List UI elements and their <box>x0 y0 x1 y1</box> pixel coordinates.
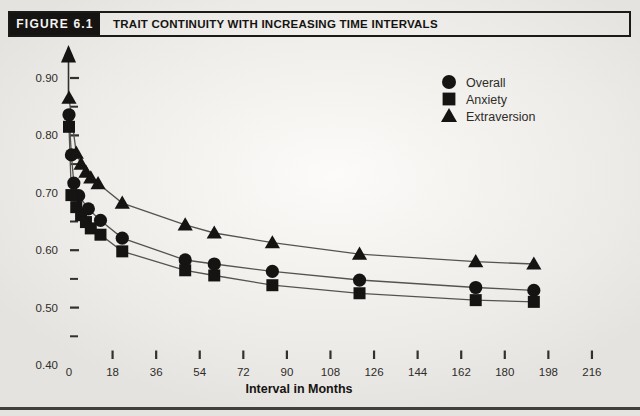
series-line-overall <box>69 115 534 291</box>
legend-extraversion-triangle-marker <box>441 108 457 122</box>
point-overall-circle-marker <box>67 176 80 189</box>
page-bottom-rule <box>0 407 640 410</box>
y-axis-tick-label: 0.70 <box>36 187 58 199</box>
x-axis-tick-label: 36 <box>150 366 163 378</box>
y-axis-tick-label: 0.80 <box>36 129 58 141</box>
y-axis-tick-label: 0.50 <box>36 302 58 314</box>
point-overall-circle-marker <box>353 273 366 286</box>
x-axis-tick-label: 126 <box>364 366 383 378</box>
x-axis-tick-label: 216 <box>582 366 601 378</box>
x-axis-tick-label: 0 <box>66 366 72 378</box>
y-axis-tick-label: 0.60 <box>36 244 58 256</box>
x-axis-tick-label: 18 <box>106 366 119 378</box>
x-axis-title: Interval in Months <box>246 382 353 396</box>
point-overall-circle-marker <box>527 284 540 297</box>
point-anxiety-square-marker <box>528 296 540 308</box>
point-anxiety-square-marker <box>116 245 128 257</box>
point-extraversion-triangle-marker <box>115 196 130 209</box>
point-anxiety-square-marker <box>208 269 220 281</box>
legend-label-overall: Overall <box>466 76 506 90</box>
y-axis-arrow-icon <box>61 45 76 63</box>
x-axis-tick-label: 180 <box>495 366 514 378</box>
point-overall-circle-marker <box>208 257 221 270</box>
y-axis-tick-label: 0.40 <box>36 359 58 371</box>
point-overall-circle-marker <box>266 265 279 278</box>
legend-overall-circle-marker <box>442 75 456 89</box>
y-axis-tick-label: 0.90 <box>36 72 58 84</box>
point-overall-circle-marker <box>62 108 75 121</box>
legend-label-anxiety: Anxiety <box>466 93 508 107</box>
x-axis-tick-label: 108 <box>321 366 340 378</box>
x-axis-tick-label: 90 <box>280 366 293 378</box>
series-line-extraversion <box>69 98 534 264</box>
point-overall-circle-marker <box>469 281 482 294</box>
point-anxiety-square-marker <box>354 287 366 299</box>
legend-anxiety-square-marker <box>443 93 456 106</box>
x-axis-tick-label: 54 <box>193 366 206 378</box>
x-axis-tick-label: 198 <box>539 366 558 378</box>
point-anxiety-square-marker <box>94 229 106 241</box>
x-axis-tick-label: 144 <box>408 366 428 378</box>
point-extraversion-triangle-marker <box>178 217 193 230</box>
trait-continuity-chart: 0.900.800.700.600.500.400183654729010812… <box>0 0 640 416</box>
book-page: { "header": { "figure_label": "FIGURE 6.… <box>0 0 640 416</box>
point-overall-circle-marker <box>116 232 129 245</box>
point-anxiety-square-marker <box>179 264 191 276</box>
legend-label-extraversion: Extraversion <box>466 110 536 124</box>
series-line-anxiety <box>69 127 534 302</box>
point-anxiety-square-marker <box>266 279 278 291</box>
point-extraversion-triangle-marker <box>468 254 483 267</box>
point-anxiety-square-marker <box>470 294 482 306</box>
x-axis-tick-label: 162 <box>452 366 471 378</box>
point-anxiety-square-marker <box>65 189 77 201</box>
point-extraversion-triangle-marker <box>526 256 541 269</box>
point-extraversion-triangle-marker <box>61 90 76 103</box>
point-anxiety-square-marker <box>63 121 75 133</box>
x-axis-tick-label: 72 <box>237 366 250 378</box>
